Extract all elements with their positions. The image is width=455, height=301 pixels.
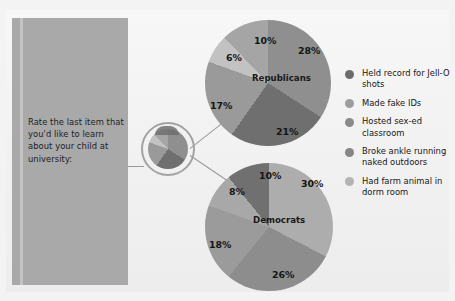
- pie-slice-pct-dem-5: 10%: [259, 170, 281, 181]
- hub-ring: [141, 122, 195, 176]
- legend-item-3[interactable]: Broke ankle running naked outdoors: [345, 146, 451, 169]
- legend-label-4: Had farm animal in dorm room: [362, 176, 451, 199]
- pie-slice-pct-rep-2: 21%: [276, 126, 298, 137]
- connector-panel-to-hub: [128, 166, 144, 167]
- legend-item-1[interactable]: Made fake IDs: [345, 98, 451, 109]
- legend-item-2[interactable]: Hosted sex-ed classroom: [345, 116, 451, 139]
- slide-canvas: Rate the last item that you'd like to le…: [0, 0, 455, 301]
- legend-label-3: Broke ankle running naked outdoors: [362, 146, 451, 169]
- legend-swatch-icon-4: [345, 177, 354, 186]
- legend-item-0[interactable]: Held record for Jell-O shots: [345, 68, 451, 91]
- legend-item-4[interactable]: Had farm animal in dorm room: [345, 176, 451, 199]
- pie-label-republicans: Republicans: [252, 73, 311, 83]
- legend-swatch-icon-3: [345, 148, 354, 157]
- pie-slice-pct-dem-4: 8%: [229, 186, 245, 197]
- pie-slice-pct-rep-1: 28%: [298, 45, 320, 56]
- pie-slice-pct-dem-2: 26%: [272, 269, 294, 280]
- legend-label-2: Hosted sex-ed classroom: [362, 116, 451, 139]
- legend: Held record for Jell-O shots Made fake I…: [345, 68, 451, 206]
- pie-slice-pct-rep-5: 10%: [254, 35, 276, 46]
- legend-swatch-icon-2: [345, 118, 354, 127]
- pie-slice-pct-dem-3: 18%: [209, 239, 231, 250]
- pie-label-democrats: Democrats: [253, 215, 305, 225]
- question-text: Rate the last item that you'd like to le…: [28, 116, 126, 165]
- legend-swatch-icon-1: [345, 99, 354, 108]
- legend-label-0: Held record for Jell-O shots: [362, 68, 451, 91]
- legend-label-1: Made fake IDs: [362, 98, 451, 109]
- pie-slice-pct-rep-3: 17%: [210, 100, 232, 111]
- panel-accent-stripe: [20, 18, 23, 285]
- legend-swatch-icon-0: [345, 70, 354, 79]
- pie-slice-pct-dem-1: 30%: [301, 178, 323, 189]
- pie-slice-pct-rep-4: 6%: [226, 52, 242, 63]
